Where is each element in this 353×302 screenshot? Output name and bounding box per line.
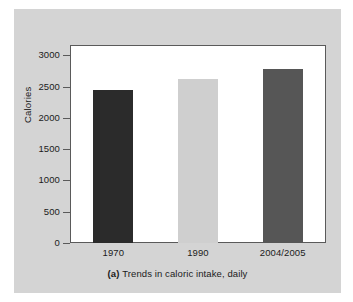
bar-slot [240, 46, 325, 243]
caption-tag: (a) [108, 268, 120, 279]
x-axis-tick-label: 1990 [156, 247, 241, 258]
figure-container: 050010001500200025003000 Calories 197019… [0, 0, 353, 302]
bar-slot [71, 46, 156, 243]
y-axis-tick-label: 3000 [38, 49, 60, 60]
y-axis-tick-label: 2500 [38, 81, 60, 92]
y-axis-tick-mark [63, 212, 70, 213]
bars-layer [71, 46, 325, 243]
y-axis-title: Calories [22, 87, 33, 123]
y-axis-tick-label: 500 [44, 206, 60, 217]
y-axis-tick-mark [63, 180, 70, 181]
figure-caption: (a) Trends in caloric intake, daily [14, 268, 341, 279]
caption-text: Trends in caloric intake, daily [122, 268, 247, 279]
y-axis-tick-label: 0 [55, 237, 60, 248]
y-axis-tick-label: 1500 [38, 143, 60, 154]
bar-2004-2005[interactable] [263, 69, 303, 243]
y-axis-tick-mark [63, 149, 70, 150]
bar-1970[interactable] [93, 90, 133, 243]
y-axis-tick-label: 1000 [38, 174, 60, 185]
x-axis-labels: 197019902004/2005 [71, 247, 325, 263]
y-axis-tick-label: 2000 [38, 112, 60, 123]
y-axis-tick-mark [63, 118, 70, 119]
bar-slot [156, 46, 241, 243]
x-axis-tick-label: 2004/2005 [240, 247, 325, 258]
y-axis-tick-mark [63, 55, 70, 56]
x-axis-tick-label: 1970 [71, 247, 156, 258]
y-axis: 050010001500200025003000 [0, 45, 70, 244]
y-axis-tick-mark [63, 243, 70, 244]
y-axis-tick-mark [63, 87, 70, 88]
bar-1990[interactable] [178, 79, 218, 243]
